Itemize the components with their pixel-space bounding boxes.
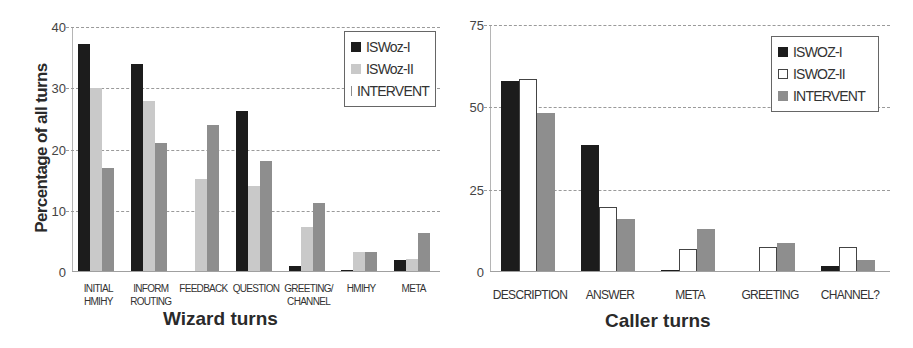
legend-item: ISWoz-II [351,58,429,80]
x-tick-label: META [387,282,440,295]
y-tick-label: 25 [454,182,484,197]
x-axis-line [72,271,440,272]
bar [207,125,219,272]
caller-turns-chart: 0255075 DESCRIPTIONANSWERMETAGREETINGCHA… [455,0,913,348]
bar [248,186,260,272]
x-tick-label: CHANNEL? [810,289,890,302]
legend-swatch-icon [778,47,788,57]
gridline [484,25,890,26]
x-tick-label: DESCRIPTION [490,289,570,302]
legend-label: ISWOZ-II [793,66,845,82]
legend-swatch-icon [778,69,788,79]
legend-swatch-icon [778,91,788,101]
gridline [66,150,440,151]
bar [313,203,325,272]
bar [697,229,715,272]
y-tick-label: 50 [454,100,484,115]
legend-item: ISWoz-I [351,36,429,58]
bar [617,219,635,272]
x-tick-label: QUESTION [230,282,283,295]
bar [155,143,167,272]
legend-label: ISWOZ-I [793,44,842,60]
legend-swatch-icon [351,64,361,74]
legend: ISWOZ-IISWOZ-IIINTERVENT [771,36,879,112]
bar [260,161,272,272]
bar [195,179,207,272]
legend-label: ISWoz-II [366,61,413,77]
bar [501,81,519,272]
legend-item: INTERVENT [778,85,872,107]
bar [102,168,114,272]
bar [519,79,537,272]
y-tick-label: 20 [36,142,66,157]
legend: ISWoz-IISWoz-IIINTERVENT [344,31,436,107]
legend-label: INTERVENT [357,83,429,99]
x-tick-label: HMIHY [335,282,388,295]
x-tick-label: INITIAL HMIHY [72,282,125,308]
gridline [66,27,440,28]
y-tick-label: 75 [454,18,484,33]
bar [131,64,143,272]
y-tick-label: 10 [36,203,66,218]
x-tick-label: GREETING/ CHANNEL [282,282,335,308]
bar [353,252,365,272]
y-tick-label: 40 [36,20,66,35]
legend-item: ISWOZ-II [778,63,872,85]
bar [236,111,248,272]
bar [365,252,377,272]
legend-label: INTERVENT [793,88,865,104]
bar [143,101,155,273]
x-axis-line [490,271,890,272]
bar [759,247,777,272]
legend-swatch-icon [351,42,361,52]
x-tick-label: META [650,289,730,302]
x-axis-title: Wizard turns [163,308,278,330]
legend-item: ISWOZ-I [778,41,872,63]
wizard-turns-chart: Percentage of all turns 010203040 INITIA… [0,0,455,348]
y-axis-line [490,25,491,272]
bar [599,207,617,272]
legend-item: INTERVENT [351,80,429,102]
y-tick-label: 0 [36,265,66,280]
x-axis-title: Caller turns [605,310,711,332]
bar [406,259,418,272]
bar [537,113,555,272]
bar [78,44,90,272]
x-tick-label: FEEDBACK [177,282,230,295]
bar [777,243,795,272]
y-tick-label: 0 [454,265,484,280]
bar [90,88,102,272]
legend-label: ISWoz-I [366,39,410,55]
y-tick-label: 30 [36,81,66,96]
bar [418,233,430,272]
x-tick-label: ANSWER [570,289,650,302]
bar [581,145,599,272]
bar [679,249,697,272]
bar [839,247,857,272]
bar [301,227,313,272]
x-tick-label: GREETING [730,289,810,302]
legend-swatch-icon [351,86,352,96]
x-tick-label: INFORM ROUTING [125,282,178,308]
